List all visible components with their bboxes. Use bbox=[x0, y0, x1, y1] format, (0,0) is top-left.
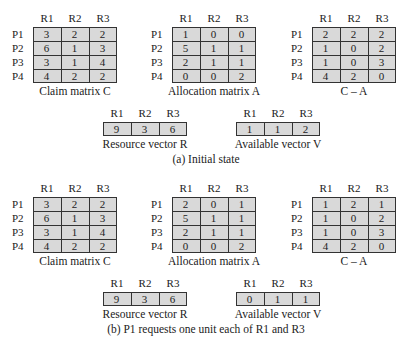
vector-cell: 3 bbox=[131, 122, 159, 136]
row-header: P1 bbox=[151, 198, 171, 210]
matrix-cell: 2 bbox=[89, 239, 117, 253]
matrix-cell: 0 bbox=[172, 239, 200, 253]
matrix-cell: 0 bbox=[200, 69, 228, 83]
row-header: P3 bbox=[12, 56, 32, 68]
matrix-cell: 2 bbox=[172, 197, 200, 211]
column-header: R1 bbox=[172, 182, 200, 194]
panel-caption: (a) Initial state bbox=[0, 153, 412, 165]
row-header: P3 bbox=[291, 226, 311, 238]
row-header: P1 bbox=[151, 28, 171, 40]
matrix-cell: 5 bbox=[172, 41, 200, 55]
resource-vector-grid: 936 bbox=[103, 122, 187, 136]
matrix-cell: 4 bbox=[89, 225, 117, 239]
allocation-matrix-grid: 100511211002 bbox=[172, 27, 256, 83]
need-matrix-title: C – A bbox=[292, 85, 412, 97]
row-header: P2 bbox=[151, 212, 171, 224]
vector-cell: 2 bbox=[292, 122, 320, 136]
matrix-cell: 2 bbox=[61, 239, 89, 253]
column-header: R1 bbox=[103, 277, 131, 289]
resource-vector-grid: 936 bbox=[103, 292, 187, 306]
column-header: R3 bbox=[292, 277, 320, 289]
column-header: R1 bbox=[33, 12, 61, 24]
row-header: P4 bbox=[12, 70, 32, 82]
vector-cell: 9 bbox=[103, 122, 131, 136]
matrix-cell: 2 bbox=[89, 69, 117, 83]
matrix-cell: 2 bbox=[61, 197, 89, 211]
matrix-cell: 0 bbox=[340, 41, 368, 55]
matrix-cell: 1 bbox=[228, 41, 256, 55]
matrix-cell: 2 bbox=[340, 27, 368, 41]
matrix-cell: 3 bbox=[33, 27, 61, 41]
matrix-cell: 6 bbox=[33, 211, 61, 225]
matrix-cell: 2 bbox=[340, 69, 368, 83]
matrix-cell: 6 bbox=[33, 41, 61, 55]
column-header: R2 bbox=[340, 12, 368, 24]
matrix-cell: 1 bbox=[200, 41, 228, 55]
row-header: P1 bbox=[12, 198, 32, 210]
matrix-cell: 2 bbox=[228, 69, 256, 83]
matrix-cell: 4 bbox=[89, 55, 117, 69]
matrix-cell: 1 bbox=[200, 211, 228, 225]
row-header: P2 bbox=[151, 42, 171, 54]
matrix-cell: 3 bbox=[33, 55, 61, 69]
matrix-cell: 2 bbox=[340, 197, 368, 211]
column-header: R2 bbox=[61, 12, 89, 24]
matrix-cell: 2 bbox=[368, 27, 396, 41]
column-header: R3 bbox=[159, 107, 187, 119]
column-header: R3 bbox=[159, 277, 187, 289]
vector-cell: 1 bbox=[236, 122, 264, 136]
column-header: R2 bbox=[340, 182, 368, 194]
vector-cell: 1 bbox=[264, 292, 292, 306]
matrix-cell: 2 bbox=[368, 41, 396, 55]
matrix-cell: 1 bbox=[228, 211, 256, 225]
row-header: P4 bbox=[151, 240, 171, 252]
matrix-cell: 1 bbox=[61, 211, 89, 225]
column-header: R2 bbox=[264, 107, 292, 119]
matrix-cell: 0 bbox=[340, 211, 368, 225]
matrix-cell: 4 bbox=[33, 69, 61, 83]
need-matrix-grid: 222102103420 bbox=[312, 27, 396, 83]
available-vector-grid: 112 bbox=[236, 122, 320, 136]
column-header: R3 bbox=[228, 182, 256, 194]
matrix-cell: 0 bbox=[340, 55, 368, 69]
row-header: P4 bbox=[151, 70, 171, 82]
row-header: P1 bbox=[291, 198, 311, 210]
row-header: P3 bbox=[151, 56, 171, 68]
column-header: R2 bbox=[264, 277, 292, 289]
matrix-cell: 2 bbox=[89, 197, 117, 211]
available-vector-title: Available vector V bbox=[211, 138, 345, 150]
row-header: P3 bbox=[151, 226, 171, 238]
matrix-cell: 3 bbox=[368, 225, 396, 239]
claim-matrix-title: Claim matrix C bbox=[13, 85, 137, 97]
matrix-cell: 1 bbox=[312, 41, 340, 55]
matrix-cell: 1 bbox=[200, 225, 228, 239]
panel-caption: (b) P1 requests one unit each of R1 and … bbox=[0, 323, 412, 335]
matrix-cell: 2 bbox=[340, 239, 368, 253]
matrix-cell: 2 bbox=[61, 69, 89, 83]
column-header: R3 bbox=[228, 12, 256, 24]
matrix-cell: 1 bbox=[200, 55, 228, 69]
vector-cell: 1 bbox=[292, 292, 320, 306]
column-header: R3 bbox=[368, 12, 396, 24]
matrix-cell: 5 bbox=[172, 211, 200, 225]
matrix-cell: 1 bbox=[312, 211, 340, 225]
row-header: P4 bbox=[12, 240, 32, 252]
matrix-cell: 1 bbox=[312, 225, 340, 239]
available-vector-grid: 011 bbox=[236, 292, 320, 306]
row-header: P4 bbox=[291, 70, 311, 82]
row-header: P3 bbox=[291, 56, 311, 68]
matrix-cell: 2 bbox=[312, 27, 340, 41]
claim-matrix-grid: 322613314422 bbox=[33, 27, 117, 83]
matrix-cell: 0 bbox=[172, 69, 200, 83]
column-header: R3 bbox=[368, 182, 396, 194]
column-header: R2 bbox=[61, 182, 89, 194]
column-header: R2 bbox=[200, 12, 228, 24]
resource-vector-title: Resource vector R bbox=[78, 308, 212, 320]
row-header: P2 bbox=[291, 212, 311, 224]
need-matrix-grid: 121102103420 bbox=[312, 197, 396, 253]
available-vector-title: Available vector V bbox=[211, 308, 345, 320]
matrix-cell: 0 bbox=[200, 239, 228, 253]
matrix-cell: 1 bbox=[312, 197, 340, 211]
column-header: R1 bbox=[236, 277, 264, 289]
matrix-cell: 2 bbox=[228, 239, 256, 253]
